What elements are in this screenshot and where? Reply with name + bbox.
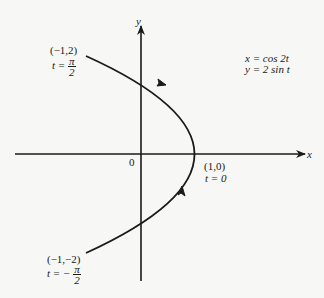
point-label-vertex: (1,0) [204, 160, 225, 172]
t-label-bottom: t = − π2 [47, 264, 81, 285]
t-label-top: t = π2 [52, 56, 76, 77]
direction-arrow-upper-icon [157, 79, 166, 86]
t-label-vertex: t = 0 [205, 172, 226, 184]
equation-y: y = 2 sin t [245, 64, 290, 75]
t-prefix: t = [47, 267, 63, 279]
t-sign: − [63, 267, 73, 279]
t-prefix: t = [52, 59, 68, 71]
fraction: π2 [73, 264, 81, 285]
fraction-denominator: 2 [73, 275, 81, 285]
x-axis-label: x [307, 148, 312, 160]
origin-label: 0 [129, 156, 135, 168]
fraction: π2 [68, 56, 76, 77]
y-axis-label: y [136, 15, 141, 27]
fraction-denominator: 2 [68, 67, 76, 77]
